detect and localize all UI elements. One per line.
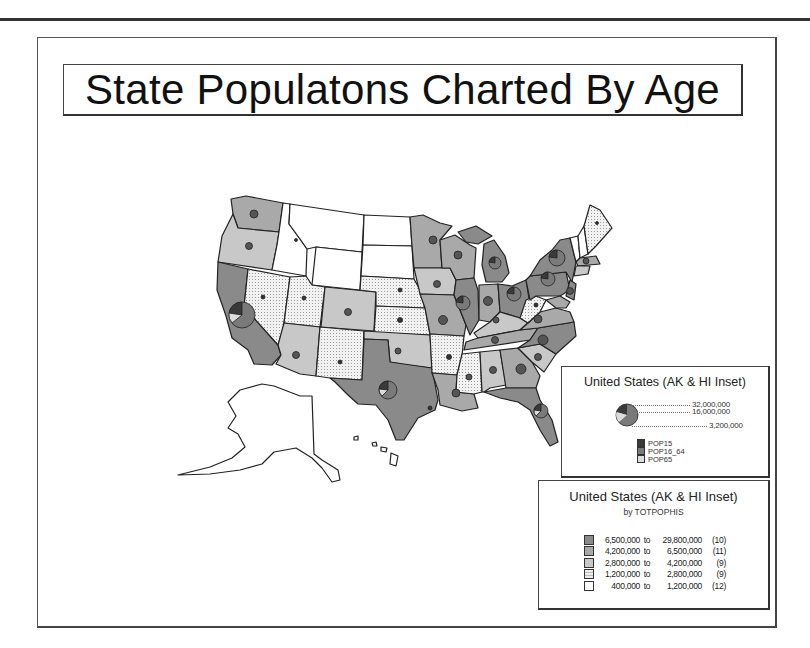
pie-arizona[interactable]: [293, 352, 300, 359]
state-florida[interactable]: [484, 388, 558, 446]
class-list: 6,500,000 to 29,800,000 (10) 4,200,000 t…: [584, 534, 726, 592]
pie-south-carolina[interactable]: [535, 354, 542, 361]
scale-leader-line: [634, 412, 690, 413]
state-hawaii-1[interactable]: [354, 436, 358, 440]
pie-nevada[interactable]: [261, 295, 265, 299]
state-north-dakota[interactable]: [363, 215, 412, 246]
pie-utah[interactable]: [302, 296, 306, 300]
class-item: 1,200,000 to 2,800,000 (9): [584, 569, 726, 581]
pie-series-list: POP15 POP16_64 POP65: [637, 439, 685, 463]
pie-new-jersey[interactable]: [567, 288, 574, 295]
pie-tennessee[interactable]: [492, 337, 499, 344]
pie-missouri[interactable]: [439, 316, 448, 325]
pie-indiana[interactable]: [484, 297, 493, 306]
pie-arkansas[interactable]: [447, 355, 452, 360]
class-to-word: to: [640, 569, 654, 579]
class-to: 29,800,000: [654, 535, 702, 545]
pie-washington[interactable]: [250, 210, 258, 218]
pie-virginia[interactable]: [534, 315, 542, 323]
pie-massachusetts[interactable]: [583, 258, 589, 264]
class-to: 1,200,000: [654, 581, 702, 591]
class-count: (9): [702, 558, 726, 568]
pie-pennsylvania[interactable]: [541, 272, 555, 286]
series-item: POP65: [637, 455, 685, 463]
pie-oklahoma[interactable]: [395, 348, 401, 354]
class-item: 4,200,000 to 6,500,000 (11): [584, 546, 726, 558]
series-label: POP65: [648, 455, 672, 464]
scale-leader-line: [632, 405, 690, 406]
state-hawaii-4[interactable]: [390, 453, 398, 466]
pie-new-mexico[interactable]: [338, 360, 342, 364]
pie-louisiana[interactable]: [452, 389, 460, 397]
series-swatch: [637, 447, 645, 455]
class-swatch: [584, 558, 594, 568]
class-from: 400,000: [598, 581, 640, 591]
state-wyoming[interactable]: [312, 247, 362, 290]
pie-kentucky[interactable]: [493, 317, 499, 323]
pie-florida[interactable]: [534, 404, 548, 418]
class-to-word: to: [640, 535, 654, 545]
class-count: (12): [702, 581, 726, 591]
pie-kansas[interactable]: [398, 318, 403, 323]
pie-texas[interactable]: [379, 381, 397, 399]
scale-leader-line: [632, 426, 707, 427]
class-legend: United States (AK & HI Inset) by TOTPOPH…: [538, 480, 770, 610]
class-to-word: to: [640, 546, 654, 556]
pie-west-virginia[interactable]: [534, 303, 538, 307]
class-to-word: to: [640, 581, 654, 591]
class-item: 6,500,000 to 29,800,000 (10): [584, 534, 726, 546]
pie-ohio[interactable]: [507, 287, 521, 301]
pie-montana[interactable]: [295, 239, 298, 242]
class-swatch: [584, 535, 594, 545]
pie-new-york[interactable]: [549, 250, 565, 266]
pie-north-carolina[interactable]: [538, 335, 548, 345]
class-swatch: [584, 569, 594, 579]
pie-oregon[interactable]: [246, 243, 253, 250]
state-arizona[interactable]: [276, 323, 320, 376]
pie-texas-small[interactable]: [428, 406, 432, 410]
pie-mississippi[interactable]: [466, 374, 472, 380]
pie-georgia[interactable]: [516, 364, 526, 374]
class-swatch: [584, 546, 594, 556]
pie-wisconsin[interactable]: [454, 251, 462, 259]
state-connecticut[interactable]: [574, 266, 590, 276]
scale-label-small: 3,200,000: [709, 421, 743, 430]
scale-label-medium: 16,000,000: [692, 407, 730, 416]
state-hawaii-2[interactable]: [372, 442, 377, 446]
class-from: 1,200,000: [598, 569, 640, 579]
pie-legend-title: United States (AK & HI Inset): [562, 375, 768, 389]
pie-maine[interactable]: [596, 222, 599, 225]
pie-iowa[interactable]: [434, 281, 441, 288]
pie-minnesota[interactable]: [429, 236, 437, 244]
pie-nebraska[interactable]: [398, 288, 402, 292]
state-maine[interactable]: [584, 205, 612, 254]
class-item: 2,800,000 to 4,200,000 (9): [584, 557, 726, 569]
series-swatch: [637, 455, 645, 463]
state-new-mexico[interactable]: [316, 327, 364, 380]
class-from: 2,800,000: [598, 558, 640, 568]
pie-colorado[interactable]: [345, 309, 352, 316]
class-item: 400,000 to 1,200,000 (12): [584, 580, 726, 592]
class-count: (11): [702, 546, 726, 556]
series-swatch: [637, 439, 645, 447]
pie-michigan[interactable]: [489, 257, 501, 269]
pie-california[interactable]: [229, 302, 255, 328]
pie-illinois[interactable]: [456, 296, 470, 310]
class-to-word: to: [640, 558, 654, 568]
class-to: 2,800,000: [654, 569, 702, 579]
state-hawaii-3[interactable]: [381, 447, 387, 452]
class-to: 4,200,000: [654, 558, 702, 568]
class-legend-subtitle: by TOTPOPHIS: [539, 507, 768, 517]
class-from: 4,200,000: [598, 546, 640, 556]
class-from: 6,500,000: [598, 535, 640, 545]
state-maryland[interactable]: [546, 296, 570, 308]
class-count: (9): [702, 569, 726, 579]
pie-legend: United States (AK & HI Inset) 32,000,000…: [561, 366, 770, 478]
class-to: 6,500,000: [654, 546, 702, 556]
state-alaska[interactable]: [178, 384, 340, 482]
pie-scale-symbol: [615, 403, 639, 427]
class-count: (10): [702, 535, 726, 545]
class-swatch: [584, 581, 594, 591]
state-south-dakota[interactable]: [361, 245, 414, 279]
pie-alabama[interactable]: [490, 367, 497, 374]
